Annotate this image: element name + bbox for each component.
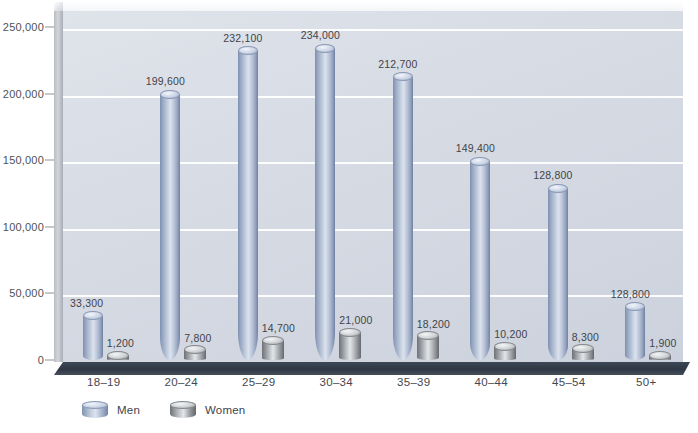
x-tick-label: 40–44 [475, 376, 508, 388]
legend-label-men: Men [117, 404, 140, 416]
x-tick-label: 25–29 [242, 376, 275, 388]
bar-value-women: 18,200 [417, 318, 450, 330]
bar-women[interactable] [494, 346, 516, 360]
y-tick-mark [45, 93, 54, 94]
legend-swatch-women-icon [170, 401, 196, 418]
legend-item-men[interactable]: Men [82, 401, 140, 418]
bar-value-men: 232,100 [223, 32, 262, 44]
plot-top-edge [63, 2, 683, 11]
y-tick-label: 0 [38, 354, 44, 366]
x-tick-label: 45–54 [552, 376, 585, 388]
bar-women[interactable] [572, 349, 594, 360]
x-tick-label: 50+ [636, 376, 656, 388]
legend: Men Women [82, 401, 245, 418]
bar-chart: 050,000100,000150,000200,000250,000 33,3… [0, 0, 698, 433]
y-tick-label: 150,000 [3, 154, 44, 166]
x-tick-label: 18–19 [87, 376, 120, 388]
bar-value-men: 199,600 [146, 75, 185, 87]
y-tick-mark [45, 360, 54, 361]
bar-value-women: 14,700 [262, 322, 295, 334]
bar-men[interactable] [315, 48, 335, 360]
y-tick-label: 200,000 [3, 88, 44, 100]
bar-men[interactable] [238, 51, 258, 360]
bar-women[interactable] [262, 340, 284, 360]
bar-value-men: 33,300 [70, 297, 103, 309]
bar-women[interactable] [649, 355, 671, 360]
x-tick-label: 30–34 [320, 376, 353, 388]
legend-item-women[interactable]: Women [170, 401, 245, 418]
y-tick-mark [45, 26, 54, 27]
y-tick-label: 100,000 [3, 221, 44, 233]
legend-swatch-men-icon [82, 401, 108, 418]
bar-men[interactable] [83, 316, 103, 360]
bar-value-women: 10,200 [494, 328, 527, 340]
bar-value-men: 128,800 [533, 169, 572, 181]
x-tick-label: 20–24 [165, 376, 198, 388]
bar-value-women: 1,900 [649, 337, 676, 349]
bar-women[interactable] [339, 332, 361, 360]
bar-value-men: 212,700 [378, 58, 417, 70]
x-tick-label: 35–39 [397, 376, 430, 388]
bar-men[interactable] [160, 94, 180, 360]
bar-value-men: 234,000 [301, 29, 340, 41]
bar-women[interactable] [184, 350, 206, 360]
bar-value-men: 128,800 [611, 288, 650, 300]
y-tick-mark [45, 293, 54, 294]
bars-layer: 33,3001,200199,6007,800232,10014,700234,… [63, 11, 683, 360]
bar-value-women: 8,300 [572, 331, 599, 343]
y-tick-mark [45, 160, 54, 161]
bar-men[interactable] [548, 188, 568, 360]
legend-label-women: Women [205, 404, 245, 416]
y-tick-label: 250,000 [3, 21, 44, 33]
left-wall-cap [54, 2, 63, 11]
bar-value-women: 1,200 [107, 337, 134, 349]
y-tick-label: 50,000 [9, 287, 44, 299]
bar-women[interactable] [417, 336, 439, 360]
bar-value-women: 21,000 [339, 314, 372, 326]
bar-value-women: 7,800 [184, 332, 211, 344]
bar-women[interactable] [107, 355, 129, 360]
floor [54, 362, 690, 375]
y-axis: 050,000100,000150,000200,000250,000 [0, 0, 54, 380]
bar-men[interactable] [470, 161, 490, 360]
left-wall [54, 2, 63, 362]
bar-men[interactable] [393, 77, 413, 360]
y-tick-mark [45, 226, 54, 227]
x-axis: 18–1920–2425–2930–3435–3940–4445–5450+ [54, 376, 690, 398]
bar-men[interactable] [625, 307, 645, 360]
bar-value-men: 149,400 [456, 142, 495, 154]
